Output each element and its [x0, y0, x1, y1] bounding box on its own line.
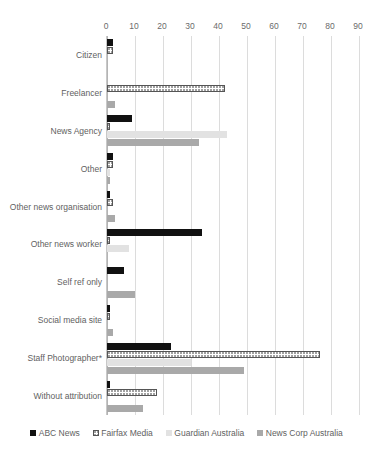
bar-track — [107, 283, 358, 290]
x-tick-label-10: 10 — [129, 20, 138, 32]
bar-track — [107, 131, 358, 138]
y-category-label: Freelancer — [0, 88, 102, 98]
bar — [107, 291, 135, 298]
gridline-90 — [359, 36, 360, 415]
bar-track — [107, 245, 358, 252]
bar-track — [107, 55, 358, 62]
bar-track — [107, 199, 358, 206]
bar — [107, 381, 110, 388]
bar — [107, 359, 191, 366]
bar-chart: 0102030405060708090 CitizenFreelancerNew… — [0, 0, 373, 456]
x-tick-label-70: 70 — [297, 20, 306, 32]
bar-track — [107, 237, 358, 244]
bar-group — [107, 379, 358, 413]
x-tick-label-80: 80 — [325, 20, 334, 32]
bar — [107, 39, 113, 46]
bar — [107, 153, 113, 160]
bar-track — [107, 63, 358, 70]
bar — [107, 47, 113, 54]
bar — [107, 101, 115, 108]
y-category-label: Staff Photographer* — [0, 353, 102, 363]
bar-group — [107, 76, 358, 110]
x-axis-tick-labels: 0102030405060708090 — [106, 20, 358, 34]
bar — [107, 351, 320, 358]
bar-groups — [107, 36, 358, 415]
legend-label: Guardian Australia — [174, 428, 244, 438]
bar — [107, 329, 113, 336]
bar-track — [107, 367, 358, 374]
bar-group — [107, 152, 358, 186]
bar-track — [107, 305, 358, 312]
plot-area — [106, 36, 358, 415]
bar-track — [107, 207, 358, 214]
bar — [107, 169, 110, 176]
bar — [107, 131, 227, 138]
legend-swatch-icon — [30, 430, 36, 436]
bar — [107, 215, 115, 222]
bar — [107, 343, 171, 350]
bar-track — [107, 177, 358, 184]
x-tick-label-60: 60 — [269, 20, 278, 32]
y-category-label: Self ref only — [0, 277, 102, 287]
legend-item[interactable]: News Corp Australia — [257, 428, 343, 438]
bar — [107, 313, 110, 320]
bar-track — [107, 321, 358, 328]
x-tick-label-50: 50 — [241, 20, 250, 32]
x-tick-label-40: 40 — [213, 20, 222, 32]
bar — [107, 191, 110, 198]
bar-track — [107, 229, 358, 236]
bar — [107, 85, 225, 92]
bar — [107, 199, 113, 206]
x-tick-label-20: 20 — [157, 20, 166, 32]
bar — [107, 267, 124, 274]
bar-group — [107, 190, 358, 224]
bar — [107, 367, 244, 374]
bar-track — [107, 275, 358, 282]
legend-label: ABC News — [39, 428, 80, 438]
bar-track — [107, 343, 358, 350]
y-category-label: Social media site — [0, 315, 102, 325]
bar-group — [107, 38, 358, 72]
bar-track — [107, 191, 358, 198]
y-category-label: Other — [0, 164, 102, 174]
y-category-label: Citizen — [0, 50, 102, 60]
bar — [107, 123, 110, 130]
bar-track — [107, 397, 358, 404]
bar-track — [107, 313, 358, 320]
bar-track — [107, 47, 358, 54]
bar — [107, 405, 143, 412]
bar-track — [107, 153, 358, 160]
x-tick-label-90: 90 — [353, 20, 362, 32]
bar — [107, 161, 113, 168]
bar — [107, 305, 110, 312]
bar-track — [107, 139, 358, 146]
legend-swatch-icon — [257, 430, 263, 436]
bar — [107, 115, 132, 122]
legend-item[interactable]: Guardian Australia — [166, 428, 244, 438]
bar-group — [107, 114, 358, 148]
bar — [107, 389, 157, 396]
bar-group — [107, 227, 358, 261]
bar-track — [107, 77, 358, 84]
bar-group — [107, 341, 358, 375]
bar-track — [107, 161, 358, 168]
bar-group — [107, 265, 358, 299]
bar-group — [107, 303, 358, 337]
y-category-label: Other news organisation — [0, 202, 102, 212]
legend-swatch-icon — [93, 430, 99, 436]
legend-item[interactable]: Fairfax Media — [93, 428, 153, 438]
x-tick-label-0: 0 — [104, 20, 109, 32]
bar-track — [107, 351, 358, 358]
bar-track — [107, 93, 358, 100]
bar — [107, 229, 202, 236]
x-tick-label-30: 30 — [185, 20, 194, 32]
bar-track — [107, 115, 358, 122]
legend-label: News Corp Australia — [266, 428, 343, 438]
bar — [107, 139, 199, 146]
bar-track — [107, 169, 358, 176]
bar-track — [107, 101, 358, 108]
bar-track — [107, 329, 358, 336]
legend-swatch-icon — [166, 430, 172, 436]
legend-item[interactable]: ABC News — [30, 428, 80, 438]
y-category-label: Without attribution — [0, 391, 102, 401]
